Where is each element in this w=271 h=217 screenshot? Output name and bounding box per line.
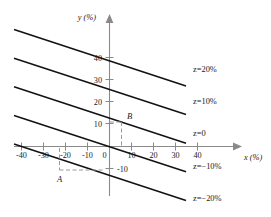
x-tick-label--30: -30 [38,151,49,160]
x-tick-labels: -40 -30 -20 -10 0 10 20 30 40 [16,151,202,160]
y-tick-label-40: 40 [94,54,102,63]
x-tick-label-20: 20 [149,151,157,160]
point-b-label: B [127,111,133,121]
y-tick-label-30: 30 [94,76,102,85]
point-b-guides [110,122,122,147]
x-tick-label-10: 10 [127,151,135,160]
x-tick-label-30: 30 [171,151,179,160]
y-tick-label-20: 20 [94,98,102,107]
x-axis-arrowhead [233,143,242,151]
iso-z-line-labels: z=20% z=10% z=0 z=−10% z=−20% [193,65,222,203]
y-axis-arrowhead [106,14,114,23]
x-axis-title: x (%) [243,153,263,162]
y-tick-label-10: 10 [94,120,102,129]
x-tick-label--10: -10 [82,151,93,160]
chart-canvas: -40 -30 -20 -10 0 10 20 30 40 40 30 20 1… [0,0,271,217]
x-tick-label-40: 40 [193,151,201,160]
line-label-z-10: z=10% [193,97,217,106]
line-label-z-0: z=0 [193,129,206,138]
line-label-z--20: z=−20% [193,194,222,203]
y-axis-title: y (%) [77,13,97,22]
line-z-0 [14,87,186,143]
y-tick-labels: 40 30 20 10 -10 [94,54,128,175]
line-label-z-20: z=20% [193,65,217,74]
y-tick-label--10: -10 [117,165,128,174]
x-tick-label--20: -20 [60,151,71,160]
x-tick-label--40: -40 [16,151,27,160]
nomogram-figure: -40 -30 -20 -10 0 10 20 30 40 40 30 20 1… [0,0,271,217]
point-a-label: A [56,174,63,184]
line-label-z--10: z=−10% [193,162,222,171]
x-tick-label-0: 0 [102,151,106,160]
x-axis [14,143,242,151]
